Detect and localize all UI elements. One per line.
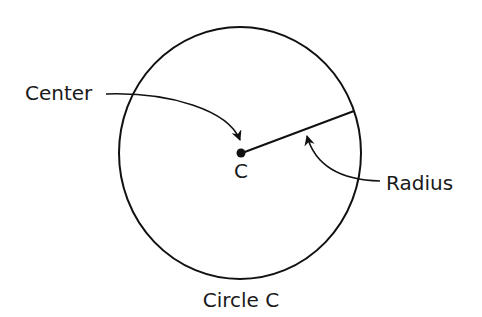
radius-arrow-icon <box>307 136 380 181</box>
circle-caption: Circle C <box>203 288 279 312</box>
diagram-svg: Center C Radius Circle C <box>0 0 482 317</box>
radius-label: Radius <box>386 171 453 195</box>
center-point-label: C <box>234 159 248 183</box>
center-label: Center <box>25 81 93 105</box>
circle-diagram: Center C Radius Circle C <box>0 0 482 317</box>
center-arrow-icon <box>106 94 240 140</box>
radius-line <box>242 111 354 153</box>
center-point <box>237 149 246 158</box>
